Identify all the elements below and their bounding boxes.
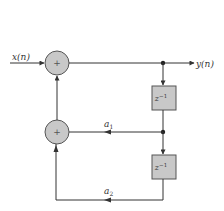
delay-2: z−1 <box>152 155 176 179</box>
coef-a2-label: a2 <box>104 186 113 197</box>
a1-arrow-icon <box>104 130 111 135</box>
delay-2-exp: −1 <box>159 162 167 168</box>
coef-a1-label: a1 <box>104 119 113 130</box>
a2-up-arrow-icon <box>54 145 59 152</box>
adder-2-plus-icon: + <box>53 127 61 137</box>
delay-1-exp: −1 <box>159 93 167 99</box>
adder-2: + <box>45 120 69 144</box>
adder-1: + <box>45 51 69 75</box>
input-label: x(n) <box>12 52 30 62</box>
output-label: y(n) <box>195 59 214 69</box>
filter-block-diagram: x(n) + y(n) z−1 a1 + z−1 <box>0 0 224 211</box>
delay-1: z−1 <box>152 86 176 110</box>
a2-arrow-icon <box>104 198 111 203</box>
adder-1-plus-icon: + <box>53 58 61 68</box>
